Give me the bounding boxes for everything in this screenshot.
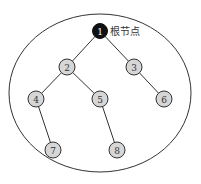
root-node-label: 根节点 xyxy=(110,25,140,37)
tree-node-8: 8 xyxy=(109,142,125,158)
node-label: 2 xyxy=(64,63,70,73)
node-label: 7 xyxy=(50,146,56,156)
node-label: 8 xyxy=(114,146,120,156)
tree-node-6: 6 xyxy=(156,91,172,107)
node-label: 6 xyxy=(161,95,167,105)
tree-node-5: 5 xyxy=(92,91,108,107)
node-label: 1 xyxy=(97,27,103,37)
tree-diagram: 1 根节点 2 3 4 5 6 7 8 xyxy=(0,0,201,184)
tree-node-3: 3 xyxy=(126,59,142,75)
node-label: 4 xyxy=(33,95,39,105)
node-label: 3 xyxy=(131,63,137,73)
tree-node-2: 2 xyxy=(59,59,75,75)
tree-node-4: 4 xyxy=(28,91,44,107)
tree-node-7: 7 xyxy=(45,142,61,158)
node-label: 5 xyxy=(97,95,103,105)
tree-node-1: 1 xyxy=(93,24,108,39)
